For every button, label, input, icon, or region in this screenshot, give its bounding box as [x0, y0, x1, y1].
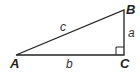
vertex-label-c: C [120, 56, 130, 71]
side-label-c: c [60, 20, 66, 34]
side-label-b: b [66, 57, 73, 71]
triangle-outline [16, 10, 124, 55]
right-triangle-diagram: A B C a b c [0, 0, 140, 72]
side-label-a: a [128, 26, 135, 40]
vertex-label-a: A [9, 56, 19, 71]
right-angle-marker [116, 47, 124, 55]
vertex-label-b: B [126, 2, 135, 17]
